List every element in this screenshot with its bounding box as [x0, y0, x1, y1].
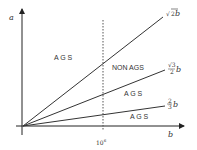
- svg-text:√3: √3: [168, 61, 176, 68]
- region-non-ags: NON AGS: [112, 64, 144, 71]
- svg-text:b: b: [176, 65, 181, 74]
- svg-text:2: 2: [170, 68, 174, 75]
- svg-text:b: b: [175, 9, 180, 18]
- svg-text:3: 3: [168, 103, 172, 110]
- x-axis-label: b: [168, 130, 173, 139]
- region-ags-lower: A G S: [130, 113, 149, 120]
- x-tick-label: 106: [96, 138, 107, 146]
- label-sqrt3-over-2-b: √3 2 b: [168, 61, 181, 75]
- label-two-thirds-b: 2 3 b: [167, 97, 178, 110]
- svg-text:b: b: [173, 100, 178, 109]
- region-ags-middle: A G S: [124, 90, 143, 97]
- ags-diagram: a b 106 √ 2 b √3 2 b 2 3 b A G S NON AGS…: [0, 0, 197, 150]
- region-ags-upper: A G S: [54, 54, 73, 61]
- svg-text:√: √: [166, 10, 170, 17]
- label-sqrt2-b: √ 2 b: [166, 9, 180, 18]
- y-axis-label: a: [9, 13, 14, 22]
